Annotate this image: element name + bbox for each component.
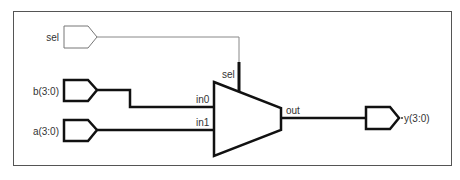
port-y[interactable]: y(3:0) [366,107,430,129]
mux-block[interactable]: sel in0 in1 out [196,69,300,156]
port-sel[interactable]: sel [46,26,97,48]
port-b-label: b(3:0) [33,86,59,97]
port-y-label: y(3:0) [404,113,430,124]
schematic-canvas: sel b(3:0) a(3:0) sel in0 in1 out y(3:0) [0,0,460,180]
mux-shape-icon [214,82,281,156]
input-port-shape-icon [64,120,97,141]
port-y-dot [401,117,403,119]
input-port-shape-icon [64,26,97,48]
mux-pin-sel: sel [222,69,235,80]
mux-pin-in1: in1 [196,117,210,128]
port-b[interactable]: b(3:0) [33,80,97,101]
output-port-shape-icon [366,107,399,129]
wire-sel [97,37,239,62]
port-a-label: a(3:0) [33,126,59,137]
mux-pin-in0: in0 [196,94,210,105]
port-a[interactable]: a(3:0) [33,120,97,141]
mux-pin-out: out [286,105,300,116]
input-port-shape-icon [64,80,97,101]
port-sel-label: sel [46,32,59,43]
